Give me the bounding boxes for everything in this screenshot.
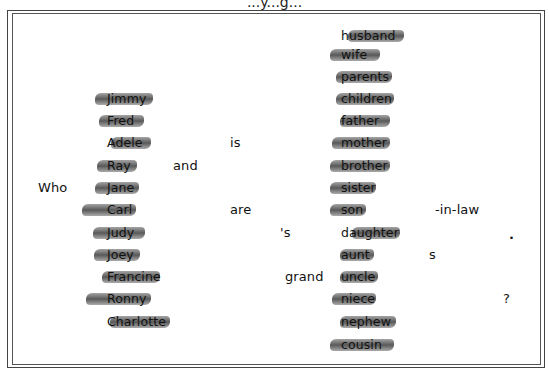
relation-word: brother <box>341 158 388 174</box>
word-possessive: 's <box>280 225 291 241</box>
relation-word: aunt <box>341 247 370 263</box>
relation-word: uncle <box>341 269 375 285</box>
word-who: Who <box>38 180 67 196</box>
relation-word: parents <box>341 69 389 85</box>
inner-border <box>12 13 541 365</box>
name-word: Francine <box>107 269 161 285</box>
period-mark: . <box>509 227 514 243</box>
relation-word: mother <box>341 135 387 151</box>
name-word: Jimmy <box>107 91 146 107</box>
question-mark: ? <box>503 291 510 307</box>
relation-word: son <box>341 202 363 218</box>
word-and: and <box>173 158 198 174</box>
word-grand: grand <box>285 269 324 285</box>
name-word: Adele <box>107 135 143 151</box>
relation-word: husband <box>341 28 396 44</box>
name-word: Carl <box>107 202 132 218</box>
word-plural-s: s <box>429 247 436 263</box>
relation-word: sister <box>341 180 376 196</box>
name-word: Joey <box>107 247 134 263</box>
cut-off-title: ...y...g... <box>0 0 549 10</box>
name-word: Ronny <box>107 291 147 307</box>
word-in-law: -in-law <box>435 202 479 218</box>
word-are: are <box>230 202 251 218</box>
name-word: Charlotte <box>107 314 166 330</box>
name-word: Ray <box>107 158 131 174</box>
relation-word: niece <box>341 291 375 307</box>
relation-word: cousin <box>341 337 382 353</box>
relation-word: children <box>341 91 392 107</box>
relation-word: father <box>341 113 379 129</box>
relation-word: daughter <box>341 225 399 241</box>
relation-word: nephew <box>341 314 391 330</box>
relation-word: wife <box>341 47 367 63</box>
word-is: is <box>230 135 241 151</box>
name-word: Fred <box>107 113 134 129</box>
name-word: Judy <box>107 225 134 241</box>
name-word: Jane <box>107 180 134 196</box>
